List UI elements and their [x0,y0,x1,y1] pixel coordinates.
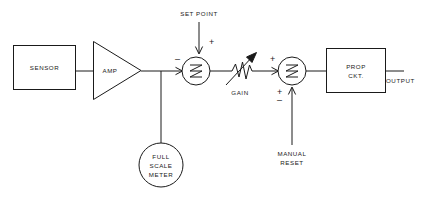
diagram-svg: SENSOR AMP FULL SCALE METER SET POINT + [0,0,423,204]
prop-ckt-label-line2: CKT. [348,72,364,79]
manual-reset-input: + – MANUAL RESET [277,87,307,166]
sign-sum1-setpoint: + [209,37,214,47]
gain-resistor-zigzag [232,62,262,79]
sensor-block: SENSOR [14,46,76,90]
prop-ckt-box [327,49,386,93]
meter-label-line1: FULL [152,153,169,160]
gain-label: GAIN [231,89,248,96]
prop-ckt-label-line1: PROP [346,63,366,70]
full-scale-meter: FULL SCALE METER [139,143,183,187]
sign-sum2-gain-in: + [270,54,275,64]
manual-reset-label-line2: RESET [280,159,303,166]
output-terminal: OUTPUT [385,71,415,84]
summing-junction-1 [182,57,210,85]
gain-potentiometer: GAIN [226,53,262,97]
manual-reset-label-line1: MANUAL [277,150,306,157]
output-label: OUTPUT [386,77,415,84]
sign-sum1-feedback: – [175,54,180,64]
summing-junction-2 [278,57,306,85]
meter-label-line3: METER [149,171,173,178]
sensor-label: SENSOR [30,64,59,71]
block-diagram-canvas: SENSOR AMP FULL SCALE METER SET POINT + [0,0,423,204]
set-point-label: SET POINT [180,10,218,17]
amp-label: AMP [102,67,117,74]
prop-ckt-block: PROP CKT. [327,49,386,93]
meter-label-line2: SCALE [149,162,172,169]
sign-sum2-reset-minus: – [277,95,282,105]
set-point-input: SET POINT + [180,10,218,54]
amp-block: AMP [94,42,142,100]
